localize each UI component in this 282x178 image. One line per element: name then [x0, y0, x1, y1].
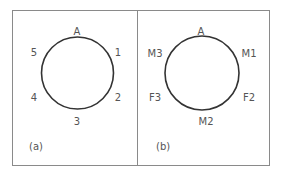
label-b-f3: F3	[149, 92, 161, 103]
panel-b: A M1 F2 M2 F3 M3 (b)	[148, 26, 257, 152]
label-b-f2: F2	[243, 92, 255, 103]
label-a-4: 4	[31, 92, 37, 103]
label-a-5: 5	[31, 47, 37, 58]
label-b-m1: M1	[242, 48, 257, 59]
label-a-top: A	[74, 26, 81, 37]
caption-a: (a)	[29, 141, 43, 152]
circle-a	[42, 37, 114, 109]
label-a-2: 2	[115, 92, 121, 103]
circle-b	[165, 36, 239, 110]
label-b-m2: M2	[199, 116, 214, 127]
caption-b: (b)	[156, 141, 170, 152]
label-b-top: A	[198, 26, 205, 37]
panel-a: A 1 2 3 4 5 (a)	[29, 26, 121, 152]
label-a-1: 1	[115, 47, 121, 58]
label-b-m3: M3	[148, 48, 163, 59]
diagram-canvas: A 1 2 3 4 5 (a) A M1 F2 M2 F3 M3 (b)	[0, 0, 282, 178]
label-a-3: 3	[74, 116, 80, 127]
